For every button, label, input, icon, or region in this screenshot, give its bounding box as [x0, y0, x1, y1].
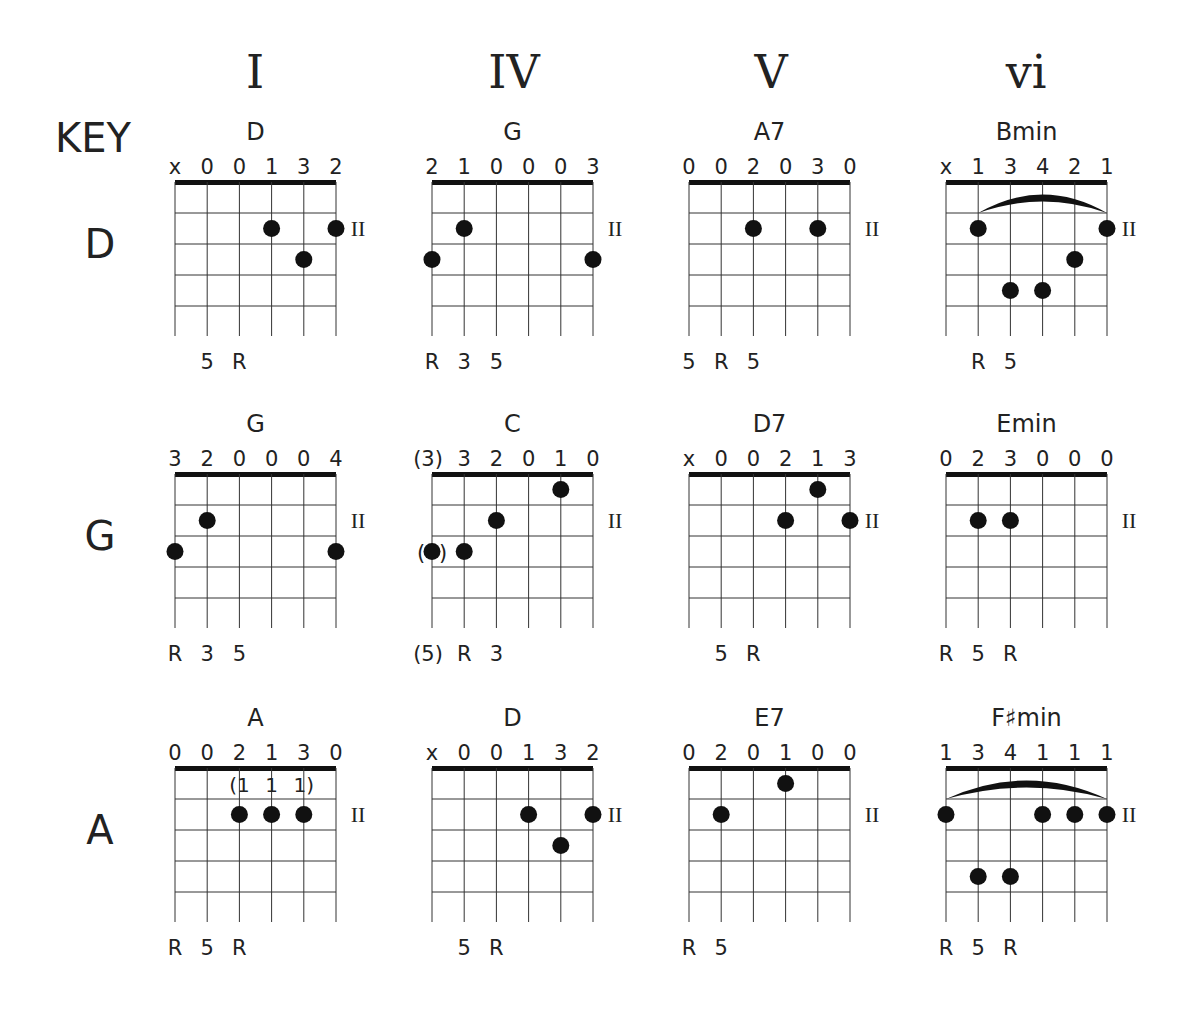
finger-number: 1 — [972, 155, 985, 179]
interval-label: R — [1003, 642, 1018, 666]
interval-label: 5 — [972, 936, 985, 960]
chord-name: G — [503, 118, 522, 146]
finger-dot — [1066, 806, 1083, 823]
finger-number: x — [940, 155, 952, 179]
interval-label: R — [971, 350, 986, 374]
interval-label: R — [232, 936, 247, 960]
finger-dot — [1002, 282, 1019, 299]
fret-marker: II — [351, 508, 366, 533]
finger-dot — [552, 837, 569, 854]
finger-number: 0 — [1068, 447, 1081, 471]
interval-label: 3 — [201, 642, 214, 666]
interval-label: 5 — [715, 936, 728, 960]
finger-number: 0 — [1036, 447, 1049, 471]
interval-label: (5) — [413, 642, 443, 666]
nut — [432, 766, 593, 771]
nut — [175, 766, 336, 771]
finger-number: 2 — [490, 447, 503, 471]
finger-number: 3 — [586, 155, 599, 179]
interval-label: 5 — [201, 350, 214, 374]
finger-number: 0 — [168, 741, 181, 765]
fret-marker: II — [608, 216, 623, 241]
finger-dot — [456, 220, 473, 237]
finger-number: 1 — [1068, 741, 1081, 765]
finger-number: 0 — [715, 155, 728, 179]
finger-number: 0 — [811, 741, 824, 765]
finger-number: 3 — [1004, 447, 1017, 471]
interval-label: R — [489, 936, 504, 960]
chord-diagram: C(3)32010()II(5)R3 — [413, 410, 622, 666]
finger-number: 2 — [715, 741, 728, 765]
finger-dot — [777, 512, 794, 529]
finger-dot — [199, 512, 216, 529]
finger-number: 0 — [297, 447, 310, 471]
column-numeral-1: I — [246, 45, 264, 99]
finger-number: 0 — [939, 447, 952, 471]
key-header: KEY — [55, 115, 132, 161]
finger-dot — [263, 806, 280, 823]
finger-dot — [970, 220, 987, 237]
interval-label: 5 — [458, 936, 471, 960]
key-label: D — [85, 221, 116, 267]
finger-number: 0 — [522, 155, 535, 179]
interval-label: 5 — [490, 350, 503, 374]
nut — [689, 180, 850, 185]
finger-number: 2 — [201, 447, 214, 471]
finger-number: 0 — [233, 155, 246, 179]
key-row-a: AA002130(111)IIR5RDx00132II5RE7020100IIR… — [86, 704, 1136, 960]
fret-marker: II — [1122, 802, 1137, 827]
nut — [175, 180, 336, 185]
finger-dot — [1099, 806, 1116, 823]
finger-number: 0 — [779, 155, 792, 179]
finger-dot — [295, 806, 312, 823]
chord-name: A7 — [754, 118, 786, 146]
interval-label: 5 — [233, 642, 246, 666]
finger-number: 0 — [682, 741, 695, 765]
chord-diagram: Bminx13421IIR5 — [940, 118, 1137, 374]
finger-dot — [231, 806, 248, 823]
finger-dot — [1099, 220, 1116, 237]
chord-name: E7 — [754, 704, 784, 732]
finger-number: 2 — [329, 155, 342, 179]
finger-dot — [745, 220, 762, 237]
finger-number: x — [426, 741, 438, 765]
finger-number: 3 — [168, 447, 181, 471]
finger-number: 0 — [233, 447, 246, 471]
finger-dot — [552, 481, 569, 498]
finger-dot — [970, 512, 987, 529]
nut — [689, 766, 850, 771]
finger-number: 3 — [297, 741, 310, 765]
finger-number: 0 — [201, 155, 214, 179]
chord-name: Bmin — [996, 118, 1058, 146]
finger-dot — [424, 251, 441, 268]
finger-dot — [488, 512, 505, 529]
fret-marker: II — [865, 802, 880, 827]
finger-number: 2 — [779, 447, 792, 471]
optional-paren-left: ( — [417, 541, 425, 565]
chord-diagram: D7x00213II5R — [683, 410, 880, 666]
fret-marker: II — [351, 216, 366, 241]
interval-label: 5 — [1004, 350, 1017, 374]
finger-dot — [328, 220, 345, 237]
finger-number: 0 — [490, 155, 503, 179]
chord-name: F♯min — [991, 704, 1062, 732]
finger-number: 0 — [682, 155, 695, 179]
key-label: G — [85, 513, 116, 559]
nut — [946, 766, 1107, 771]
finger-dot — [456, 543, 473, 560]
interval-label: R — [746, 642, 761, 666]
finger-number: 2 — [972, 447, 985, 471]
finger-dot — [713, 806, 730, 823]
chord-diagram: Dx00132II5R — [426, 704, 623, 960]
finger-number: 0 — [522, 447, 535, 471]
interval-label: 3 — [458, 350, 471, 374]
nut — [432, 472, 593, 477]
finger-number: 0 — [1100, 447, 1113, 471]
finger-number: 1 — [1036, 741, 1049, 765]
fret-marker: II — [608, 802, 623, 827]
finger-number: 3 — [554, 741, 567, 765]
interval-label: R — [939, 642, 954, 666]
interval-label: 5 — [201, 936, 214, 960]
finger-annotation: 1 — [265, 773, 278, 797]
interval-label: R — [682, 936, 697, 960]
